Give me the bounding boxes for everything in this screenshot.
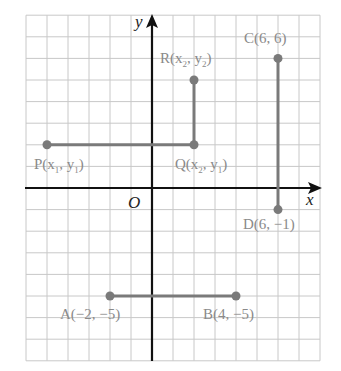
label-C: C(6, 6) xyxy=(244,30,287,47)
label-B: B(4, −5) xyxy=(203,306,254,323)
point-labels: P(x1, y1) Q(x2, y1) R(x2, y2) C(6, 6) D(… xyxy=(34,30,295,323)
y-axis-label: y xyxy=(133,12,143,31)
label-R: R(x2, y2) xyxy=(160,50,212,69)
label-A: A(−2, −5) xyxy=(60,306,120,323)
point-R xyxy=(190,76,199,85)
coordinate-plane-figure: x y O P(x1, y1) Q(x2, y1) R(x2, y2) C(6,… xyxy=(0,0,341,371)
origin-label: O xyxy=(128,193,140,212)
points xyxy=(43,54,283,301)
segments xyxy=(47,58,278,296)
point-B xyxy=(232,292,241,301)
point-D xyxy=(274,205,283,214)
point-Q xyxy=(190,140,199,149)
label-Q: Q(x2, y1) xyxy=(175,156,227,175)
label-P: P(x1, y1) xyxy=(34,156,84,175)
point-P xyxy=(43,140,52,149)
point-C xyxy=(274,54,283,63)
label-D: D(6, −1) xyxy=(243,216,295,233)
point-A xyxy=(106,292,115,301)
x-axis-label: x xyxy=(305,190,314,209)
